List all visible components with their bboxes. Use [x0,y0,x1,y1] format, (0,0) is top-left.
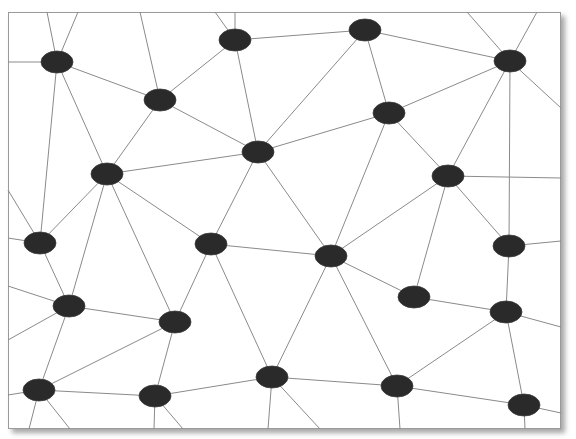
edge-n5-border [140,12,160,100]
edge-n8-n16 [107,174,175,322]
edge-n17-n21 [397,312,506,386]
node-n6 [373,102,405,124]
edge-n3-n4 [365,30,510,61]
node-n3 [349,19,381,41]
edge-n4-n6 [389,61,510,113]
node-n15 [398,286,430,308]
node-n22 [508,394,540,416]
network-graph [0,0,576,439]
edge-n9-n13 [448,176,509,246]
edge-n12-n20 [272,256,331,377]
edges-layer [8,12,561,429]
edge-n6-n12 [331,113,389,256]
diagram-canvas [0,0,576,439]
edge-n3-n6 [365,30,389,113]
edge-n9-n15 [414,176,448,297]
edge-n17-n22 [506,312,524,405]
edge-n11-n16 [175,244,211,322]
node-n12 [315,245,347,267]
edge-n9-border [448,176,561,178]
edge-n11-n12 [211,244,331,256]
node-n10 [24,232,56,254]
node-n2 [219,29,251,51]
edge-n4-n13 [509,61,510,246]
edge-n5-n7 [160,100,258,152]
edge-n21-n22 [397,386,524,405]
node-n11 [195,233,227,255]
edge-n1-n5 [57,62,160,100]
edge-n7-n8 [107,152,258,174]
node-n17 [490,301,522,323]
node-n9 [432,165,464,187]
edge-n11-n20 [211,244,272,377]
edge-n7-n11 [211,152,258,244]
edge-n2-n3 [235,30,365,40]
edge-n6-n7 [258,113,389,152]
edge-n5-n2 [160,40,235,100]
edge-n20-n21 [272,377,397,386]
edge-n7-n12 [258,152,331,256]
edge-n19-n20 [155,377,272,396]
node-n21 [381,375,413,397]
edge-n9-n12 [331,176,448,256]
edge-n2-n7 [235,40,258,152]
edge-n5-n8 [107,100,160,174]
node-n14 [53,295,85,317]
node-n8 [91,163,123,185]
node-n5 [144,89,176,111]
edge-n1-n10 [40,62,57,243]
edge-n4-n9 [448,61,510,176]
edge-n1-n8 [57,62,107,174]
node-n1 [41,51,73,73]
node-n20 [256,366,288,388]
edge-n12-n21 [331,256,397,386]
node-n16 [159,311,191,333]
node-n13 [493,235,525,257]
edge-n18-n19 [39,390,155,396]
node-n19 [139,385,171,407]
node-n18 [23,379,55,401]
edge-n3-n7 [258,30,365,152]
node-n4 [494,50,526,72]
node-n7 [242,141,274,163]
